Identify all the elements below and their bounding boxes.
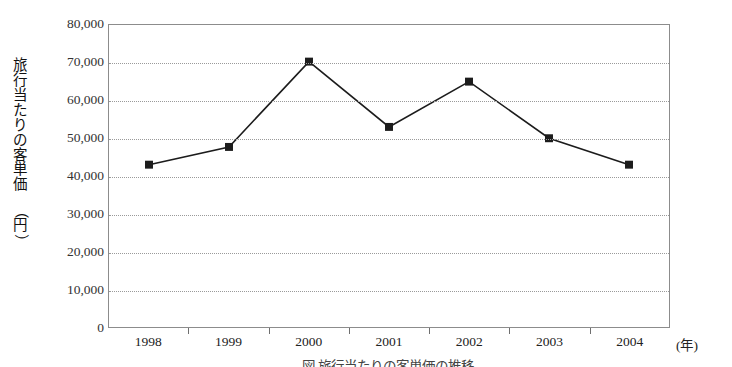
y-axis-tick-labels: 010,00020,00030,00040,00050,00060,00070,… xyxy=(34,0,104,367)
data-point-marker xyxy=(305,58,313,66)
gridline xyxy=(109,177,669,178)
x-axis-tick-mark xyxy=(509,328,510,334)
x-axis-unit-label: (年) xyxy=(676,334,698,354)
x-axis-tick-label: 2002 xyxy=(429,334,509,350)
gridline xyxy=(109,215,669,216)
y-axis-unit-paren-open: （ xyxy=(13,204,28,218)
x-axis-tick-label: 1999 xyxy=(188,334,268,350)
data-point-marker xyxy=(145,161,153,169)
y-axis-title-char: 単 xyxy=(13,162,27,177)
data-point-marker xyxy=(625,161,633,169)
y-axis-title-char: 行 xyxy=(13,73,27,88)
data-point-marker xyxy=(385,123,393,131)
y-axis-tick-label: 80,000 xyxy=(36,16,104,32)
chart-figure: 旅 行 当 た り の 客 単 価 （ 円 ） 010,00020,00030,… xyxy=(0,0,732,367)
x-axis-tick-label: 2004 xyxy=(590,334,670,350)
y-axis-tick-label: 70,000 xyxy=(36,54,104,70)
y-axis-title-char: 客 xyxy=(13,148,27,163)
x-axis-tick-label: 2000 xyxy=(269,334,349,350)
y-axis-title-char: 当 xyxy=(13,88,27,103)
y-axis-unit-char: 円 xyxy=(13,218,27,233)
line-series xyxy=(109,25,669,327)
gridline xyxy=(109,291,669,292)
y-axis-tick-label: 30,000 xyxy=(36,206,104,222)
series-markers xyxy=(145,58,633,169)
x-axis-tick-mark xyxy=(269,328,270,334)
x-axis-tick-label: 1998 xyxy=(108,334,188,350)
y-axis-tick-label: 10,000 xyxy=(36,282,104,298)
data-point-marker xyxy=(225,143,233,151)
plot-area xyxy=(108,24,670,328)
x-axis-tick-mark xyxy=(429,328,430,334)
series-line-path xyxy=(149,62,629,165)
gridline xyxy=(109,101,669,102)
x-axis-tick-mark xyxy=(349,328,350,334)
gridline xyxy=(109,139,669,140)
y-axis-tick-label: 20,000 xyxy=(36,244,104,260)
gridline xyxy=(109,253,669,254)
gridline xyxy=(109,63,669,64)
x-axis-tick-mark xyxy=(188,328,189,334)
x-axis-tick-label: 2001 xyxy=(349,334,429,350)
data-point-marker xyxy=(465,78,473,86)
figure-caption: 図 旅行当たりの客単価の推移 xyxy=(108,355,668,367)
y-axis-tick-label: 60,000 xyxy=(36,92,104,108)
y-axis-title-char: た xyxy=(13,103,27,118)
y-axis-title-char: 旅 xyxy=(13,58,27,73)
y-axis-title-char: の xyxy=(13,133,27,148)
y-axis-tick-label: 40,000 xyxy=(36,168,104,184)
y-axis-title-char: 価 xyxy=(13,177,27,192)
y-axis-title: 旅 行 当 た り の 客 単 価 （ 円 ） xyxy=(6,58,34,270)
y-axis-title-char: り xyxy=(13,118,27,133)
y-axis-unit: （ 円 ） xyxy=(13,203,27,248)
x-axis-tick-mark xyxy=(590,328,591,334)
x-axis-tick-label: 2003 xyxy=(510,334,590,350)
y-axis-tick-label: 50,000 xyxy=(36,130,104,146)
y-axis-tick-label: 0 xyxy=(36,320,104,336)
y-axis-unit-paren-close: ） xyxy=(13,234,28,248)
